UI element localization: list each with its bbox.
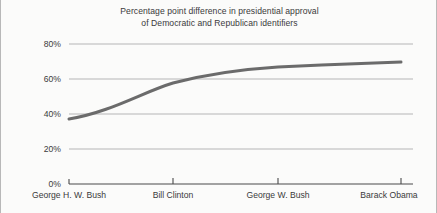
x-tick-label-george-hw-bush: George H. W. Bush — [32, 190, 106, 200]
gridlines — [69, 44, 413, 149]
y-tick-label-80: 80% — [17, 39, 61, 49]
data-line-partisan-gap — [69, 62, 401, 119]
y-tick-label-60: 60% — [17, 74, 61, 84]
axes — [69, 178, 413, 184]
y-tick-label-20: 20% — [17, 144, 61, 154]
y-tick-label-0: 0% — [17, 179, 61, 189]
x-tick-label-george-w-bush: George W. Bush — [246, 190, 309, 200]
y-tick-label-40: 40% — [17, 109, 61, 119]
x-tick-label-bill-clinton: Bill Clinton — [153, 190, 194, 200]
chart-figure: Percentage point difference in president… — [0, 0, 437, 213]
chart-plot-area — [1, 0, 437, 213]
x-tick-label-barack-obama: Barack Obama — [360, 190, 417, 200]
